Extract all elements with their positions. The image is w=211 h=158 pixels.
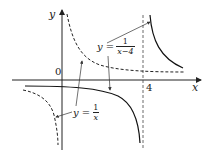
denominator: x [93,112,100,122]
equation-lhs: y = [97,41,114,52]
pointer-arrow [76,61,82,106]
curve-1-over-x-lower [23,90,58,145]
numerator: 1 [92,103,99,112]
x-axis-label: x [192,82,198,93]
label-y-equals-1-over-x: y = 1 x [73,103,99,122]
y-axis-label: y [49,9,55,20]
denominator: x−4 [116,46,134,56]
function-graph: y 0 x 4 y = 1 x−4 y = 1 x [0,0,211,158]
label-y-equals-1-over-x-minus-4: y = 1 x−4 [97,37,135,56]
asymptote-label: 4 [146,83,152,93]
pointer-arrow [108,56,110,90]
curve-1-over-x-minus-4-right [150,15,183,68]
pointer-arrow [56,112,72,117]
equation-lhs: y = [73,107,90,118]
origin-label: 0 [55,67,61,77]
graph-canvas [0,0,211,158]
numerator: 1 [122,37,129,46]
